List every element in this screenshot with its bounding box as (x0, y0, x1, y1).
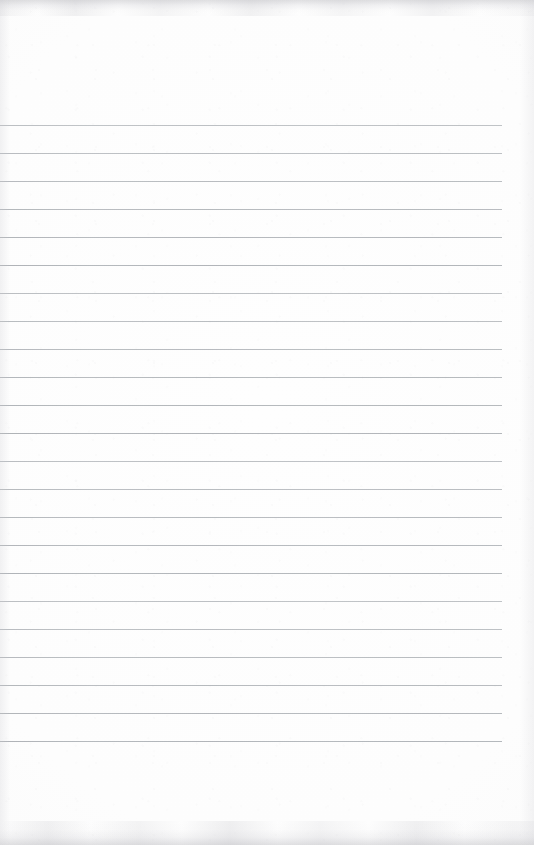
ruled-line (0, 405, 502, 406)
scan-edge-left (0, 0, 10, 845)
ruled-line (0, 573, 502, 574)
ruled-line (0, 461, 502, 462)
ruled-line (0, 629, 502, 630)
ruled-line (0, 237, 502, 238)
ruled-line (0, 377, 502, 378)
ruled-line (0, 349, 502, 350)
ruled-line (0, 545, 502, 546)
ruled-line (0, 209, 502, 210)
scan-edge-top-mottle (0, 0, 534, 16)
scanned-page (0, 0, 534, 845)
ruled-line (0, 125, 502, 126)
ruled-line (0, 433, 502, 434)
ruled-line (0, 265, 502, 266)
ruled-line (0, 153, 502, 154)
ruled-line (0, 601, 502, 602)
ruled-line (0, 181, 502, 182)
scan-edge-bottom-mottle (0, 821, 534, 845)
ruled-line (0, 657, 502, 658)
scan-edge-right (520, 0, 534, 845)
ruled-line (0, 321, 502, 322)
ruled-lines-group (0, 0, 534, 845)
ruled-line (0, 489, 502, 490)
ruled-line (0, 293, 502, 294)
ruled-line (0, 685, 502, 686)
ruled-line (0, 713, 502, 714)
ruled-line (0, 517, 502, 518)
